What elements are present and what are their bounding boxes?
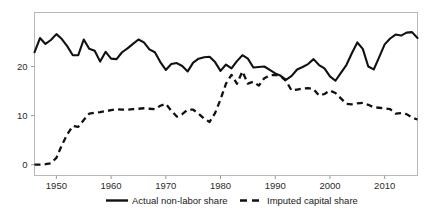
chart-figure: 01020 1950196019701980199020002010 Actua… (0, 0, 443, 218)
x-tick-label: 1980 (210, 180, 231, 191)
y-tick-label: 20 (17, 61, 28, 72)
x-tick-label: 1990 (265, 180, 286, 191)
line-chart: 01020 1950196019701980199020002010 Actua… (0, 0, 443, 218)
x-tick-label: 1950 (46, 180, 67, 191)
legend-label-imputed-capital-share: Imputed capital share (267, 195, 358, 206)
y-tick-label: 0 (22, 159, 27, 170)
legend-label-actual-non-labor-share: Actual non-labor share (132, 195, 228, 206)
x-tick-label: 2000 (319, 180, 340, 191)
y-tick-label: 10 (17, 110, 28, 121)
x-tick-label: 1970 (155, 180, 176, 191)
x-tick-label: 2010 (374, 180, 395, 191)
x-tick-label: 1960 (101, 180, 122, 191)
